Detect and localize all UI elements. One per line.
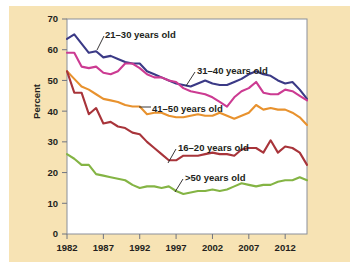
x-tick-label: 1992: [129, 242, 150, 253]
series-annotation-label: 16–20 years old: [178, 142, 249, 153]
y-tick-label: 0: [53, 228, 58, 239]
x-tick-label: 1987: [93, 242, 114, 253]
y-tick-label: 70: [47, 13, 58, 24]
chart-figure: Percent 010203040506070 1982198719921997…: [0, 0, 358, 273]
x-axis-ticks: 1982198719921997200220072012: [56, 234, 295, 253]
y-tick-label: 60: [47, 44, 58, 55]
line-chart-svg: 010203040506070 198219871992199720022007…: [9, 6, 350, 262]
y-tick-label: 10: [47, 198, 58, 209]
x-tick-label: 2007: [238, 242, 259, 253]
x-tick-label: 2012: [275, 242, 296, 253]
series-annotation-label: >50 years old: [185, 172, 246, 183]
plot-area: [67, 19, 307, 234]
y-tick-label: 30: [47, 136, 58, 147]
x-tick-label: 1997: [166, 242, 187, 253]
chart-canvas: 010203040506070 198219871992199720022007…: [9, 6, 350, 262]
y-tick-label: 50: [47, 75, 58, 86]
x-tick-label: 1982: [56, 242, 77, 253]
series-annotation-label: 21–30 years old: [105, 29, 176, 40]
y-axis-ticks: 010203040506070: [47, 13, 67, 239]
y-tick-label: 20: [47, 167, 58, 178]
x-tick-label: 2002: [202, 242, 223, 253]
y-tick-label: 40: [47, 106, 58, 117]
series-annotation-label: 31–40 years old: [197, 65, 268, 76]
series-annotation-label: 41–50 years old: [152, 103, 223, 114]
